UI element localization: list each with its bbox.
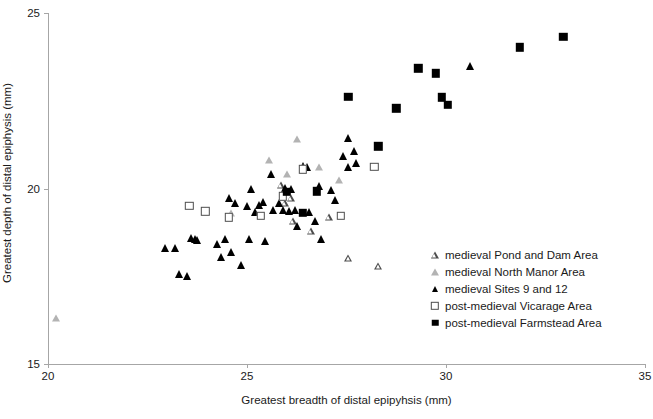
legend-marker-icon [428,316,442,330]
data-point [269,206,277,214]
data-point [291,206,299,214]
data-point [267,170,275,178]
data-point [315,164,323,171]
data-point [336,212,344,220]
data-point [466,62,474,70]
data-point [247,185,255,193]
x-axis-title: Greatest breadth of distal epipyhsis (mm… [48,394,645,406]
scatter-chart-figure: 20253035152025 Greatest breadth of dista… [0,0,653,419]
data-point [193,236,201,244]
x-tick-label: 25 [241,370,254,382]
legend-item-label: post-medieval Vicarage Area [445,299,592,313]
x-tick-mark [247,364,248,368]
data-point [432,69,440,77]
data-point [299,209,307,217]
data-point [315,182,323,190]
y-tick-mark [44,189,48,190]
legend-item: post-medieval Farmstead Area [428,314,602,331]
x-tick-label: 35 [639,370,652,382]
data-point [444,101,452,109]
data-point [245,235,253,243]
legend-item: medieval Sites 9 and 12 [428,280,602,297]
data-point [201,207,209,215]
data-point [161,244,169,252]
data-point [344,163,352,171]
legend-item-label: medieval Sites 9 and 12 [445,282,568,296]
data-point [283,170,291,177]
data-point [52,314,60,321]
data-point [261,237,269,245]
y-tick-label: 15 [27,358,40,370]
data-point [281,184,289,192]
legend-item-label: post-medieval Farmstead Area [445,316,602,330]
data-point [344,134,352,142]
data-point [293,135,301,142]
x-tick-label: 30 [440,370,453,382]
data-point [305,208,313,216]
x-axis-line [48,364,645,365]
legend-marker-glyph [431,251,439,258]
data-point [374,142,382,150]
data-point [370,163,378,171]
data-point [311,217,319,225]
data-point [299,162,307,170]
data-point [331,196,339,204]
data-point [285,207,293,215]
data-point [217,253,225,261]
data-point [213,240,221,248]
data-point [312,187,320,195]
data-point [171,244,179,252]
data-point [225,213,233,221]
data-point [287,194,295,201]
data-point [259,198,267,206]
data-point [231,199,239,207]
x-tick-mark [446,364,447,368]
data-point [191,235,199,243]
data-point [344,92,352,100]
data-point [251,208,259,216]
data-point [325,214,333,221]
data-point [414,64,422,72]
data-point [307,227,315,234]
legend-marker-icon [428,282,442,296]
data-point [187,234,195,242]
x-tick-label: 20 [42,370,55,382]
data-point [183,272,191,280]
legend-marker-glyph [432,286,438,292]
data-point [327,186,335,194]
data-point [265,157,273,164]
legend-marker-glyph [431,268,439,275]
legend-marker-glyph [432,319,439,326]
data-point [299,165,307,173]
data-point [277,181,285,188]
data-point [237,261,245,269]
data-point [344,254,352,261]
data-point [175,270,183,278]
data-point [255,201,263,209]
data-point [275,199,283,207]
data-point [281,200,289,207]
legend-marker-icon [428,299,442,313]
data-point [279,192,287,200]
legend-marker-icon [428,265,442,279]
data-point [243,202,251,210]
data-point [283,188,291,196]
x-tick-mark [645,364,646,368]
legend-item-label: medieval North Manor Area [445,265,585,279]
data-point [185,202,193,210]
legend-item-label: medieval Pond and Dam Area [445,248,598,262]
data-point [257,212,265,220]
legend-marker-glyph [431,301,439,309]
data-point [352,159,360,167]
y-tick-label: 25 [27,7,40,19]
data-point [225,194,233,202]
legend-item: post-medieval Vicarage Area [428,297,602,314]
legend-marker-icon [428,248,442,262]
y-axis-line [48,13,49,364]
chart-legend: medieval Pond and Dam Areamedieval North… [428,246,602,331]
data-point [289,217,297,224]
y-axis-title: Greatest depth of distal epiphysis (mm) [1,8,17,359]
data-point [227,248,235,256]
data-point [279,206,287,214]
data-point [335,176,343,183]
